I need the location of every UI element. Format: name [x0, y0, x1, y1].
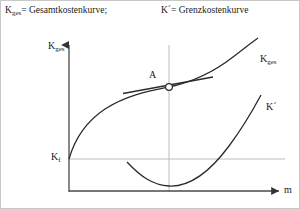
inflection-point-label: A	[149, 69, 156, 80]
y-axis-label: Kges	[48, 40, 65, 51]
total-cost-curve-label-subscript: ges	[267, 58, 276, 66]
cost-curves-figure: Kges= Gesamtkostenkurve; K´= Grenzkosten…	[0, 0, 300, 209]
marginal-cost-curve-label: K´	[266, 101, 277, 112]
fixed-cost-label: Kf	[51, 151, 61, 162]
plot-canvas	[1, 1, 300, 209]
total-cost-curve-label: Kges	[260, 53, 277, 64]
total-cost-curve	[69, 38, 258, 159]
x-axis-label: m	[284, 184, 292, 195]
y-axis-label-subscript: ges	[55, 45, 64, 53]
marginal-cost-curve	[127, 95, 261, 186]
inflection-point-marker	[166, 84, 173, 91]
fixed-cost-label-subscript: f	[58, 156, 60, 164]
